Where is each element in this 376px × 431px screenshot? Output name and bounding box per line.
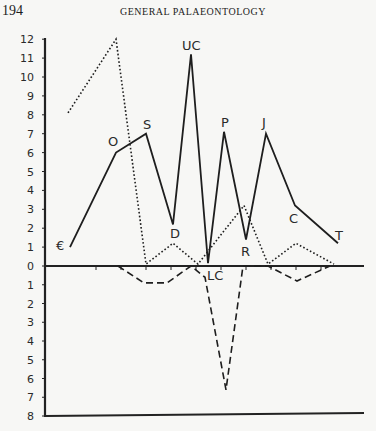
y-tick-label-below: 4 [27,335,34,348]
y-tick-label: 5 [27,166,34,179]
point-label: UC [182,38,201,53]
y-tick-label: 8 [27,109,34,122]
point-label: C [289,211,298,226]
y-tick-label: 1 [27,241,34,254]
y-tick-label: 11 [20,52,34,65]
y-tick-label: 6 [27,147,34,160]
y-tick-label: 12 [20,33,34,46]
point-label: LC [207,268,223,283]
point-label: D [170,226,180,241]
y-tick-label-below: 8 [27,410,34,423]
y-tick-label-below: 6 [27,373,34,386]
point-label: J [261,115,266,130]
series-solid [70,54,338,263]
point-label: T [334,228,343,243]
point-label: € [56,238,64,253]
series-dotted [68,39,334,264]
y-tick-label: 10 [20,71,34,84]
y-tick-label-below: 7 [27,391,34,404]
point-label: R [241,244,250,259]
y-tick-label-below: 3 [27,316,34,329]
y-tick-label-below: 1 [27,279,34,292]
point-label: O [108,134,118,149]
y-axis-ticks: 121110987654321012345678 [20,33,45,423]
y-tick-label-below: 5 [27,354,34,367]
y-tick-label: 7 [27,128,34,141]
bottom-axis-line [45,413,364,416]
y-tick-label: 9 [27,90,34,103]
point-label: P [221,115,229,130]
line-chart: 121110987654321012345678 €OSDUCLCPRJCT [0,0,376,431]
series-dashed [118,266,330,390]
y-tick-label: 4 [27,184,34,197]
y-tick-label-below: 2 [27,298,34,311]
y-tick-label: 3 [27,203,34,216]
y-tick-label: 2 [27,222,34,235]
point-label: S [143,117,151,132]
y-tick-label: 0 [27,260,34,273]
